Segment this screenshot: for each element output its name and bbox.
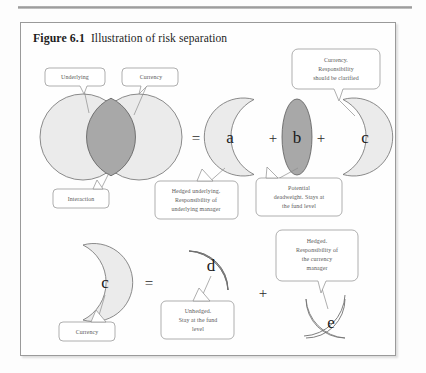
shape-b-label: b [293,128,302,147]
callout-hedged-currency-manager-line3: the currency [302,256,332,262]
callout-currency-responsibility-line1: Currency. [324,57,348,63]
callout-currency-responsibility-line2: Responsibility [318,66,353,72]
callout-unhedged-line2: Stay at the fund [179,317,218,323]
shape-a-group: a [204,98,254,176]
shape-b-group: b [282,99,312,175]
callout-hedged-underlying-tail [197,169,213,181]
callout-potential-deadweight-line3: the fund level [282,203,316,209]
operator-equals-2: = [145,275,153,291]
callout-interaction-text: Interaction [68,196,95,202]
callout-hedged-currency-manager-line1: Hedged. [307,238,328,244]
operator-plus-2: + [317,130,325,146]
shape-a-label: a [226,128,234,147]
operator-plus-3: + [259,285,267,301]
page-top-rule [18,6,412,9]
callout-hedged-currency-manager-line4: manager [307,265,328,271]
callout-unhedged: Unhedged. Stay at the fund level [161,276,234,339]
shape-e-group: e [304,295,345,338]
callout-currency-responsibility-line3: should be clarified [313,75,359,81]
shape-e [306,299,345,338]
figure-page: Figure 6.1Illustration of risk separatio… [0,0,426,373]
figure-frame: Figure 6.1Illustration of risk separatio… [20,22,396,356]
callout-hedged-underlying: Hedged underlying. Responsibility of und… [155,168,238,219]
callout-currency-top-box [122,68,178,94]
shape-e-label: e [327,313,335,332]
callout-interaction-tail [93,180,103,189]
shape-c-label: c [361,128,369,147]
venn-group [40,94,182,180]
callout-hedged-currency-manager-line2: Responsibility of [296,247,338,253]
callout-potential-deadweight-line1: Potential [288,185,310,191]
shape-c-group: c [343,98,393,176]
shape-d-label: d [207,256,216,275]
callout-hedged-underlying-line3: underlying manager [171,206,220,212]
operator-plus-1: + [269,130,277,146]
callout-potential-deadweight-line2: deadweight. Stays at [274,194,325,200]
callout-potential-deadweight-tail [266,167,278,178]
shape-d-group: d [189,251,228,290]
callout-unhedged-tail [193,288,210,301]
shape-c2-label: c [101,273,109,292]
callout-hedged-underlying-line1: Hedged underlying. [172,188,221,194]
callout-underlying-box [45,68,105,94]
callout-currency-bottom-text: Currency [76,329,99,335]
risk-separation-diagram: = a + b + c c = [21,23,395,355]
callout-currency-top-text: Currency [140,74,163,80]
callout-unhedged-line1: Unhedged. [185,308,212,314]
callout-underlying-text: Underlying [61,74,89,80]
callout-hedged-currency-manager: Hedged. Responsibility of the currency m… [276,230,358,309]
shape-c2-group: c [83,243,133,321]
callout-unhedged-line3: level [192,326,204,332]
callout-hedged-underlying-line2: Responsibility of [175,197,217,203]
operator-equals-1: = [192,130,200,146]
